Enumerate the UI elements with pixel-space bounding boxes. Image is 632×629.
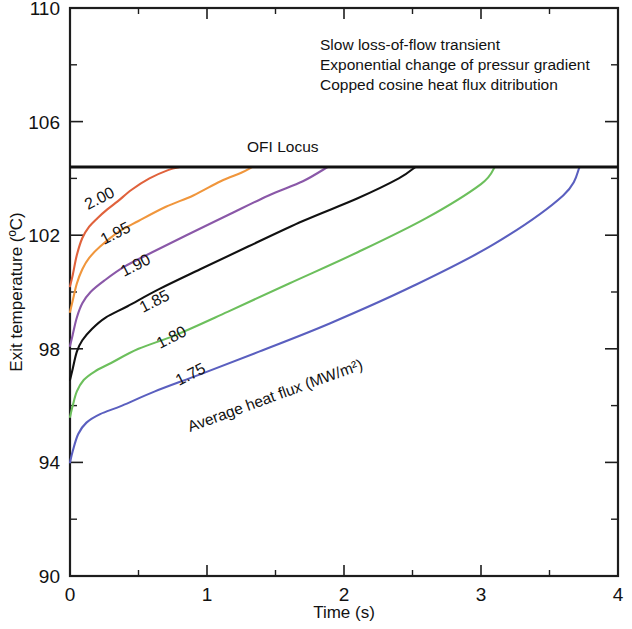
average-heat-flux-label: Average heat flux (MW/m²) [185, 356, 365, 435]
data-series-group [70, 167, 580, 462]
y-axis-tick-labels: 909498102106110 [28, 0, 60, 587]
y-tick-label: 98 [39, 339, 60, 360]
x-axis-title: Time (s) [313, 603, 375, 622]
y-tick-label: 106 [28, 112, 60, 133]
y-tick-label: 90 [39, 566, 60, 587]
series-label-1.95: 1.95 [98, 218, 134, 247]
y-tick-label: 110 [30, 0, 60, 19]
series-label-1.75: 1.75 [173, 359, 209, 388]
y-axis-title: Exit temperature (ºC) [7, 212, 26, 371]
figure-container: 01234 909498102106110 2.001.951.901.851.… [0, 0, 632, 629]
ofi-locus-label: OFI Locus [247, 138, 319, 155]
annotation-line-1: Slow loss-of-flow transient [320, 36, 501, 53]
x-tick-label: 0 [65, 584, 76, 605]
series-curve-1.80 [70, 167, 495, 417]
x-tick-label: 1 [202, 584, 213, 605]
annotation-block: Slow loss-of-flow transientExponential c… [320, 36, 590, 93]
annotation-line-2: Exponential change of pressur gradient [320, 56, 590, 73]
y-tick-label: 94 [39, 452, 61, 473]
y-tick-label: 102 [28, 225, 60, 246]
series-label-1.85: 1.85 [137, 286, 173, 315]
x-tick-label: 3 [476, 584, 487, 605]
x-axis-tick-labels: 01234 [65, 584, 624, 605]
x-tick-label: 2 [339, 584, 350, 605]
series-label-2.00: 2.00 [82, 183, 118, 212]
series-label-1.80: 1.80 [154, 322, 190, 351]
x-tick-label: 4 [613, 584, 624, 605]
exit-temperature-vs-time-chart: 01234 909498102106110 2.001.951.901.851.… [0, 0, 632, 629]
annotation-line-3: Copped cosine heat flux ditribution [320, 76, 558, 93]
